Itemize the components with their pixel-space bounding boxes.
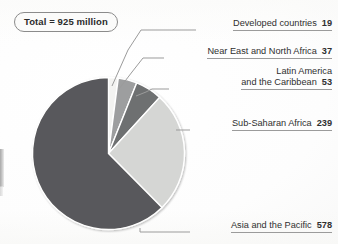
callout-underline [207,58,332,59]
callout-line-1: Latin America [241,66,332,77]
callout-line-1: Asia and the Pacific578 [231,220,332,231]
pie-slice-group [33,78,185,230]
callout-label: Sub-Saharan Africa [232,118,312,128]
callout-line-1: Developed countries19 [233,18,332,29]
callout-sub-saharan-africa[interactable]: Sub-Saharan Africa239 [232,118,332,131]
callout-value: 53 [322,77,332,87]
callout-label: Asia and the Pacific [231,220,312,230]
callout-developed-countries[interactable]: Developed countries19 [233,18,332,31]
callout-line-1: Sub-Saharan Africa239 [232,118,332,129]
callout-value: 578 [317,220,332,230]
callout-near-east-north-africa[interactable]: Near East and North Africa37 [207,46,332,59]
scan-edge-artifact [0,149,4,187]
callout-underline [233,30,332,31]
callout-underline [231,232,332,233]
callout-line-1: Near East and North Africa37 [207,46,332,57]
chart-canvas: Total = 925 million [0,0,338,244]
callout-label: Near East and North Africa [207,46,316,56]
pie-chart [30,75,188,233]
callout-label: Developed countries [233,18,317,28]
callout-latin-america-caribbean[interactable]: Latin America and the Caribbean53 [241,66,332,90]
total-badge: Total = 925 million [14,12,118,32]
callout-value: 239 [317,118,332,128]
callout-underline [232,130,332,131]
callout-asia-pacific[interactable]: Asia and the Pacific578 [231,220,332,233]
callout-underline [241,89,332,90]
callout-label-continued: and the Caribbean [241,77,317,87]
callout-value: 37 [322,46,332,56]
callout-line-2: and the Caribbean53 [241,77,332,88]
pie-svg [30,75,188,233]
callout-label: Latin America [276,66,332,76]
scan-edge-artifact-secondary [0,186,3,196]
callout-value: 19 [322,18,332,28]
